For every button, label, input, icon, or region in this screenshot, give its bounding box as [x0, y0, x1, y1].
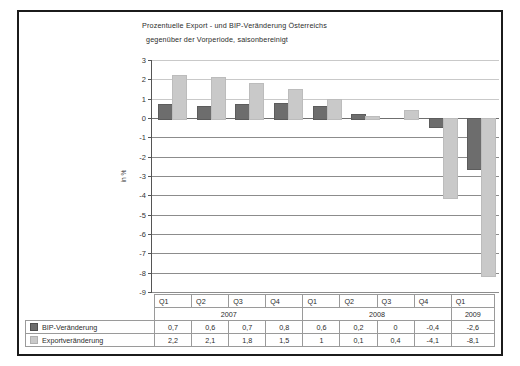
chart-title: Prozentuelle Export - und BIP-Veränderun… — [142, 19, 472, 33]
quarter-header-cell: Q4 — [266, 295, 303, 308]
y-tick-label--4: -4 — [139, 191, 146, 200]
export-value-cell: 1,5 — [266, 334, 303, 347]
quarter-header-cell: Q1 — [303, 295, 340, 308]
legend-swatch-export-icon — [30, 336, 38, 344]
export-value-cell: 1,8 — [229, 334, 266, 347]
quarters-row-label-spacer — [26, 295, 155, 308]
quarter-header-cell: Q3 — [229, 295, 266, 308]
y-tick-label-0: 0 — [142, 114, 146, 123]
plot-area-wrapper: in % 3210-1-2-3-4-5-6-7-8-9 — [133, 60, 499, 292]
bip-value-cell: -0,4 — [414, 321, 451, 334]
bar — [288, 89, 303, 120]
bip-value-cell: 0,6 — [192, 321, 229, 334]
bar — [211, 77, 226, 120]
y-tick-label--1: -1 — [139, 133, 146, 142]
y-tick-label--5: -5 — [139, 210, 146, 219]
table-row-quarters: Q1Q2Q3Q4Q1Q2Q3Q4Q1 — [26, 295, 495, 308]
legend-item-export: Exportveränderung — [26, 334, 155, 347]
bip-value-cell: 0 — [377, 321, 414, 334]
bar — [429, 118, 444, 128]
bar — [249, 83, 264, 120]
bar — [481, 118, 496, 277]
bar — [404, 110, 419, 120]
bar — [313, 106, 328, 120]
y-tick--9 — [148, 292, 152, 293]
export-value-cell: 2,1 — [192, 334, 229, 347]
bar — [327, 99, 342, 120]
export-value-cell: 0,1 — [340, 334, 377, 347]
bar-group — [345, 60, 384, 292]
gridline--9 — [152, 292, 499, 293]
year-header-cell: 2007 — [155, 308, 303, 321]
legend-item-bip: BIP-Veränderung — [26, 321, 155, 334]
bip-value-cell: 0,6 — [303, 321, 340, 334]
quarter-header-cell: Q4 — [414, 295, 451, 308]
legend-swatch-bip-icon — [30, 323, 38, 331]
chart-title-block: Prozentuelle Export - und BIP-Veränderun… — [142, 19, 472, 47]
bip-value-cell: 0,2 — [340, 321, 377, 334]
quarter-header-cell: Q1 — [155, 295, 192, 308]
quarter-header-cell: Q3 — [377, 295, 414, 308]
bar — [274, 103, 289, 120]
bip-value-cell: 0,7 — [229, 321, 266, 334]
bar-group — [307, 60, 346, 292]
bar-group — [229, 60, 268, 292]
bip-value-cell: 0,8 — [266, 321, 303, 334]
table-row-bip: BIP-Veränderung 0,70,60,70,80,60,20-0,4-… — [26, 321, 495, 334]
bip-value-cell: 0,7 — [155, 321, 192, 334]
y-tick-label--2: -2 — [139, 152, 146, 161]
chart-subtitle: gegenüber der Vorperiode, saisonbereinig… — [142, 33, 472, 47]
table-row-years: 200720082009 — [26, 308, 495, 321]
y-tick-label--7: -7 — [139, 249, 146, 258]
y-tick-label--6: -6 — [139, 230, 146, 239]
y-tick-label-2: 2 — [142, 75, 146, 84]
quarter-header-cell: Q2 — [340, 295, 377, 308]
bar — [158, 104, 173, 120]
quarter-header-cell: Q1 — [451, 295, 494, 308]
year-header-cell: 2009 — [451, 308, 494, 321]
bar — [197, 106, 212, 120]
y-tick-label--3: -3 — [139, 172, 146, 181]
export-value-cell: -8,1 — [451, 334, 494, 347]
plot-area: 3210-1-2-3-4-5-6-7-8-9 — [151, 60, 499, 292]
y-axis-title: in % — [120, 170, 127, 183]
legend-label-bip: BIP-Veränderung — [42, 323, 97, 332]
y-tick-label-1: 1 — [142, 94, 146, 103]
quarter-header-cell: Q2 — [192, 295, 229, 308]
table-row-export: Exportveränderung 2,22,11,81,510,10,4-4,… — [26, 334, 495, 347]
bar-group — [191, 60, 230, 292]
data-table: Q1Q2Q3Q4Q1Q2Q3Q4Q1 200720082009 BIP-Verä… — [25, 294, 495, 347]
bar-group — [384, 60, 423, 292]
y-tick-label-3: 3 — [142, 56, 146, 65]
bar — [467, 118, 482, 170]
export-value-cell: 2,2 — [155, 334, 192, 347]
legend-label-export: Exportveränderung — [42, 336, 103, 345]
bar-group — [268, 60, 307, 292]
year-header-cell: 2008 — [303, 308, 451, 321]
years-row-label-spacer — [26, 308, 155, 321]
bar-group — [461, 60, 500, 292]
bip-value-cell: -2,6 — [451, 321, 494, 334]
bar — [443, 118, 458, 199]
bar-group — [423, 60, 462, 292]
bar-group — [152, 60, 191, 292]
bar — [351, 114, 366, 120]
y-tick-label--8: -8 — [139, 268, 146, 277]
bar — [365, 116, 380, 120]
export-value-cell: -4,1 — [414, 334, 451, 347]
chart-frame: Prozentuelle Export - und BIP-Veränderun… — [17, 10, 503, 356]
export-value-cell: 1 — [303, 334, 340, 347]
bar — [172, 75, 187, 120]
bar — [235, 104, 250, 120]
export-value-cell: 0,4 — [377, 334, 414, 347]
